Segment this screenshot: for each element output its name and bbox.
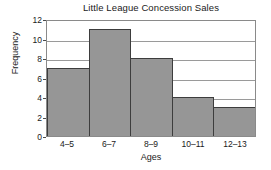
histogram-chart: Little League Concession Sales Frequency…: [0, 0, 271, 170]
y-tick-mark: [43, 137, 46, 138]
bar: [172, 97, 215, 136]
bar: [47, 68, 90, 136]
x-tick-label: 6–7: [88, 139, 130, 149]
bar: [130, 58, 173, 136]
x-tick-label: 4–5: [46, 139, 88, 149]
bars-container: [47, 21, 255, 136]
plot-area: [46, 20, 256, 137]
y-axis-label: Frequency: [10, 23, 20, 83]
y-axis-tick-marks: [22, 20, 48, 137]
x-axis-label: Ages: [46, 152, 256, 162]
bar: [89, 29, 132, 136]
bar: [213, 107, 256, 136]
chart-title: Little League Concession Sales: [46, 2, 256, 13]
x-axis-tick-labels: 4–56–78–910–1112–13: [46, 139, 256, 149]
x-tick-label: 10–11: [172, 139, 214, 149]
x-tick-label: 12–13: [214, 139, 256, 149]
x-tick-label: 8–9: [130, 139, 172, 149]
